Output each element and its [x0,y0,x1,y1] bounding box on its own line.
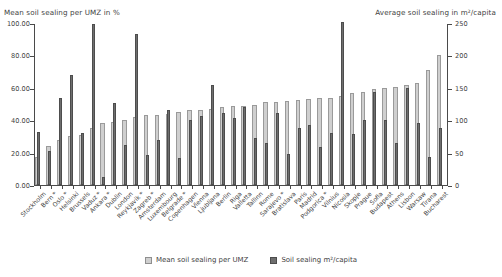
bar-group [306,24,317,185]
bar-capita [406,88,409,185]
bar-group [425,24,436,185]
bar-group [57,24,68,185]
x-tick-mark [420,186,421,189]
bar-group [111,24,122,185]
x-tick-mark [279,186,280,189]
bar-group [263,24,274,185]
bar-group [393,24,404,185]
x-tick-mark [51,186,52,189]
bar-series-container [35,24,447,185]
left-tick-mark [30,24,34,25]
bar-group [339,24,350,185]
bar-capita [384,120,387,185]
x-tick-mark [377,186,378,189]
bar-group [35,24,46,185]
x-tick-mark [105,186,106,189]
left-tick-label: 0.00 [2,182,30,190]
bar-group [241,24,252,185]
x-tick-mark [442,186,443,189]
legend-item-umz: Mean soil sealing per UMZ [145,256,248,264]
x-tick-mark [431,186,432,189]
right-tick-label: 100 [455,117,468,125]
bar-group [295,24,306,185]
left-tick-mark [30,56,34,57]
legend-label-umz: Mean soil sealing per UMZ [156,256,248,264]
right-tick-label: 200 [455,52,468,60]
x-tick-mark [116,186,117,189]
right-axis-title: Average soil sealing in m²/capita [375,8,496,17]
left-axis-title: Mean soil sealing per UMZ in % [4,8,120,17]
bar-capita [233,118,236,185]
bar-capita [59,98,62,185]
bar-group [284,24,295,185]
x-tick-mark [171,186,172,189]
bar-capita [341,22,344,185]
x-tick-mark [246,186,247,189]
bar-capita [135,34,138,185]
x-tick-mark [366,186,367,189]
bar-capita [308,125,311,185]
bar-capita [222,113,225,185]
left-tick-label: 40.00 [2,117,30,125]
x-tick-mark [181,186,182,189]
x-tick-mark [257,186,258,189]
right-tick-label: 50 [455,150,463,158]
bar-capita [211,85,214,185]
bar-group [252,24,263,185]
bar-group [143,24,154,185]
right-tick-label: 250 [455,20,468,28]
left-tick-label: 100.00 [2,20,30,28]
bar-capita [37,132,40,185]
x-tick-mark [149,186,150,189]
legend-item-capita: Soil sealing m²/capita [270,256,357,264]
left-tick-mark [30,121,34,122]
x-tick-mark [62,186,63,189]
bar-capita [200,116,203,185]
bar-group [68,24,79,185]
x-tick-mark [322,186,323,189]
bar-capita [167,110,170,185]
right-axis-line [447,24,448,186]
x-tick-mark [214,186,215,189]
x-tick-mark [138,186,139,189]
x-tick-mark [73,186,74,189]
bar-capita [92,24,95,185]
bar-group [176,24,187,185]
bar-capita [428,157,431,185]
bar-capita [113,103,116,185]
x-tick-mark [311,186,312,189]
x-tick-mark [268,186,269,189]
x-tick-mark [192,186,193,189]
bar-group [219,24,230,185]
right-tick-mark [448,154,452,155]
bar-capita [102,177,105,185]
x-tick-mark [398,186,399,189]
bar-capita [395,143,398,185]
x-tick-mark [160,186,161,189]
bar-capita [243,107,246,185]
bar-capita [352,134,355,185]
bar-group [165,24,176,185]
right-tick-mark [448,89,452,90]
x-tick-mark [84,186,85,189]
legend-label-capita: Soil sealing m²/capita [281,256,357,264]
bar-capita [157,140,160,185]
bar-group [46,24,57,185]
x-tick-mark [301,186,302,189]
left-tick-label: 60.00 [2,85,30,93]
left-tick-mark [30,186,34,187]
bar-capita [124,145,127,185]
x-tick-mark [387,186,388,189]
left-tick-mark [30,154,34,155]
bar-capita [146,155,149,185]
bar-group [187,24,198,185]
bar-capita [178,158,181,185]
bar-group [89,24,100,185]
bar-capita [70,75,73,185]
x-tick-mark [203,186,204,189]
chart-legend: Mean soil sealing per UMZ Soil sealing m… [0,256,502,264]
x-axis-labels: StockholmBern *Oslo *HelsinkiBrusselsVad… [34,190,448,250]
bar-group [382,24,393,185]
bar-group [198,24,209,185]
right-tick-label: 0 [455,182,459,190]
